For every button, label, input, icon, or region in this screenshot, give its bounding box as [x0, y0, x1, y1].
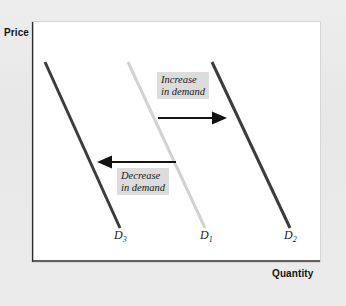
plot-area: Increase in demand Decrease in demand D3… [32, 22, 320, 262]
increase-annotation-line1: Increase [161, 74, 205, 86]
curve-label-d1-letter: D [200, 228, 209, 242]
demand-shift-figure: Price Increase in deman [0, 0, 346, 306]
curve-label-d1-subscript: 1 [209, 235, 213, 244]
decrease-annotation-line2: in demand [121, 182, 165, 194]
curve-label-d2-letter: D [284, 228, 293, 242]
x-axis-label: Quantity [272, 268, 313, 279]
curve-label-d2: D2 [284, 228, 297, 244]
curve-label-d3-letter: D [114, 228, 123, 242]
demand-curve-d3 [45, 62, 120, 228]
increase-in-demand-annotation: Increase in demand [157, 72, 209, 99]
curve-label-d3: D3 [114, 228, 127, 244]
increase-annotation-line2: in demand [161, 86, 205, 98]
y-axis-label: Price [4, 27, 29, 38]
curve-label-d1: D1 [200, 228, 213, 244]
decrease-annotation-line1: Decrease [121, 170, 165, 182]
curve-label-d2-subscript: 2 [293, 235, 297, 244]
plot-svg [32, 22, 320, 262]
decrease-in-demand-annotation: Decrease in demand [117, 168, 169, 195]
demand-curve-d2 [212, 62, 290, 228]
curve-label-d3-subscript: 3 [123, 235, 127, 244]
